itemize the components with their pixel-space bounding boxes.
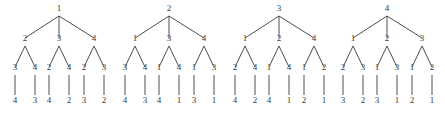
- tree-4-level3-node-0-1: 3: [356, 63, 370, 72]
- tree-2: 2134433144141331: [118, 0, 220, 120]
- tree-4-level2-node-2: 3: [415, 34, 429, 43]
- tree-4-level3-node-2-0: 1: [405, 63, 419, 72]
- tree-4-leaf-node-0-1: 2: [356, 96, 370, 105]
- tree-2-level2-node-0: 1: [128, 34, 142, 43]
- tree-4-edges: [336, 0, 438, 120]
- tree-4: 4123322133131221: [336, 0, 438, 120]
- tree-4-leaf-node-2-0: 2: [405, 96, 419, 105]
- tree-3-level3-node-2-0: 1: [297, 63, 311, 72]
- tree-1-level2-node-2: 4: [87, 34, 101, 43]
- tree-2-level3-node-2-1: 3: [207, 63, 221, 72]
- tree-1-leaf-node-0-0: 4: [8, 96, 22, 105]
- tree-1-level3-node-2-0: 2: [77, 63, 91, 72]
- tree-4-leaf-node-1-1: 1: [390, 96, 404, 105]
- tree-2-level3-node-1-0: 1: [152, 63, 166, 72]
- tree-2-leaf-node-0-0: 4: [118, 96, 132, 105]
- tree-2-level2-node-2: 4: [197, 34, 211, 43]
- tree-2-level3-node-0-1: 4: [138, 63, 152, 72]
- tree-2-leaf-node-0-1: 3: [138, 96, 152, 105]
- tree-2-leaf-node-2-0: 3: [187, 96, 201, 105]
- tree-2-edges: [118, 0, 220, 120]
- tree-4-root-node: 4: [380, 4, 394, 13]
- tree-2-root-node: 2: [162, 4, 176, 13]
- tree-1-level2-node-1: 3: [52, 34, 66, 43]
- tree-1-edges: [8, 0, 110, 120]
- tree-1-level3-node-0-0: 3: [8, 63, 22, 72]
- tree-2-leaf-node-2-1: 1: [207, 96, 221, 105]
- tree-1-root-node: 1: [52, 4, 66, 13]
- tree-2-level2-node-1: 3: [162, 34, 176, 43]
- tree-1-level3-node-1-0: 2: [42, 63, 56, 72]
- tree-4-level3-node-1-1: 3: [390, 63, 404, 72]
- tree-2-level3-node-2-0: 1: [187, 63, 201, 72]
- tree-3-level3-node-1-1: 4: [282, 63, 296, 72]
- tree-figure: 1234433244242332213443314414133131244221…: [0, 0, 445, 120]
- tree-3-level2-node-2: 4: [307, 34, 321, 43]
- tree-3-level3-node-0-0: 2: [228, 63, 242, 72]
- tree-1-leaf-node-0-1: 3: [28, 96, 42, 105]
- tree-1-leaf-node-2-0: 3: [77, 96, 91, 105]
- tree-1-leaf-node-2-1: 2: [97, 96, 111, 105]
- tree-1-level3-node-2-1: 3: [97, 63, 111, 72]
- tree-3-leaf-node-1-0: 4: [262, 96, 276, 105]
- tree-3-edges: [228, 0, 330, 120]
- tree-3-level2-node-0: 1: [238, 34, 252, 43]
- tree-3-leaf-node-0-0: 4: [228, 96, 242, 105]
- tree-3-leaf-node-1-1: 1: [282, 96, 296, 105]
- tree-4-leaf-node-0-0: 3: [336, 96, 350, 105]
- tree-3-level3-node-0-1: 4: [248, 63, 262, 72]
- tree-4-level2-node-1: 2: [380, 34, 394, 43]
- tree-3: 3124422144141221: [228, 0, 330, 120]
- tree-4-level3-node-2-1: 2: [425, 63, 439, 72]
- tree-1-level3-node-1-1: 4: [62, 63, 76, 72]
- tree-3-level3-node-1-0: 1: [262, 63, 276, 72]
- tree-1-level3-node-0-1: 4: [28, 63, 42, 72]
- tree-1-leaf-node-1-1: 2: [62, 96, 76, 105]
- tree-3-level2-node-1: 2: [272, 34, 286, 43]
- tree-3-leaf-node-2-1: 1: [317, 96, 331, 105]
- tree-3-leaf-node-0-1: 2: [248, 96, 262, 105]
- tree-3-leaf-node-2-0: 2: [297, 96, 311, 105]
- tree-2-level3-node-0-0: 3: [118, 63, 132, 72]
- tree-4-leaf-node-2-1: 1: [425, 96, 439, 105]
- tree-4-level2-node-0: 1: [346, 34, 360, 43]
- tree-3-root-node: 3: [272, 4, 286, 13]
- tree-1-leaf-node-1-0: 4: [42, 96, 56, 105]
- tree-4-level3-node-1-0: 1: [370, 63, 384, 72]
- tree-2-leaf-node-1-1: 1: [172, 96, 186, 105]
- tree-4-leaf-node-1-0: 3: [370, 96, 384, 105]
- tree-2-level3-node-1-1: 4: [172, 63, 186, 72]
- tree-4-level3-node-0-0: 2: [336, 63, 350, 72]
- tree-1-level2-node-0: 2: [18, 34, 32, 43]
- tree-3-level3-node-2-1: 2: [317, 63, 331, 72]
- tree-1: 1234433244242332: [8, 0, 110, 120]
- tree-2-leaf-node-1-0: 4: [152, 96, 166, 105]
